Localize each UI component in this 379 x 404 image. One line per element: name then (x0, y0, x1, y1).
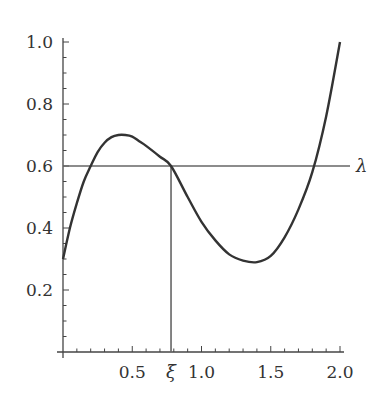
lambda-label: λ (355, 155, 367, 176)
x-tick-label: 2.0 (326, 362, 353, 382)
y-tick-label: 0.4 (26, 218, 53, 238)
xi-label: ξ (166, 361, 177, 382)
y-tick-label: 0.8 (26, 94, 53, 114)
guide-lines (63, 166, 350, 352)
y-tick-label: 1.0 (26, 32, 53, 52)
x-tick-label: 1.5 (257, 362, 284, 382)
x-tick-label: 1.0 (188, 362, 215, 382)
y-tick-label: 0.2 (26, 280, 53, 300)
axes (57, 38, 344, 358)
x-tick-label: 0.5 (119, 362, 146, 382)
chart: 0.51.01.52.00.20.40.60.81.0 λ ξ (0, 0, 379, 404)
axis-ticks (63, 42, 340, 352)
y-tick-label: 0.6 (26, 156, 53, 176)
function-curve (63, 42, 340, 262)
